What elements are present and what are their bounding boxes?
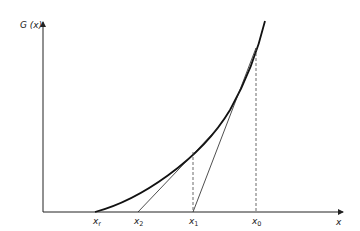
label-xr: xr (92, 216, 101, 228)
newton-method-diagram: G (x) x xr x2 x1 x0 (0, 0, 360, 231)
label-x2: x2 (133, 216, 143, 228)
tangent-x1 (138, 128, 218, 212)
label-x1: x1 (188, 216, 198, 228)
curve-g (95, 21, 265, 212)
y-axis-label: G (x) (20, 20, 42, 30)
tangent-x0 (193, 48, 256, 212)
label-x0: x0 (251, 216, 261, 228)
x-axis-label: x (335, 217, 342, 227)
